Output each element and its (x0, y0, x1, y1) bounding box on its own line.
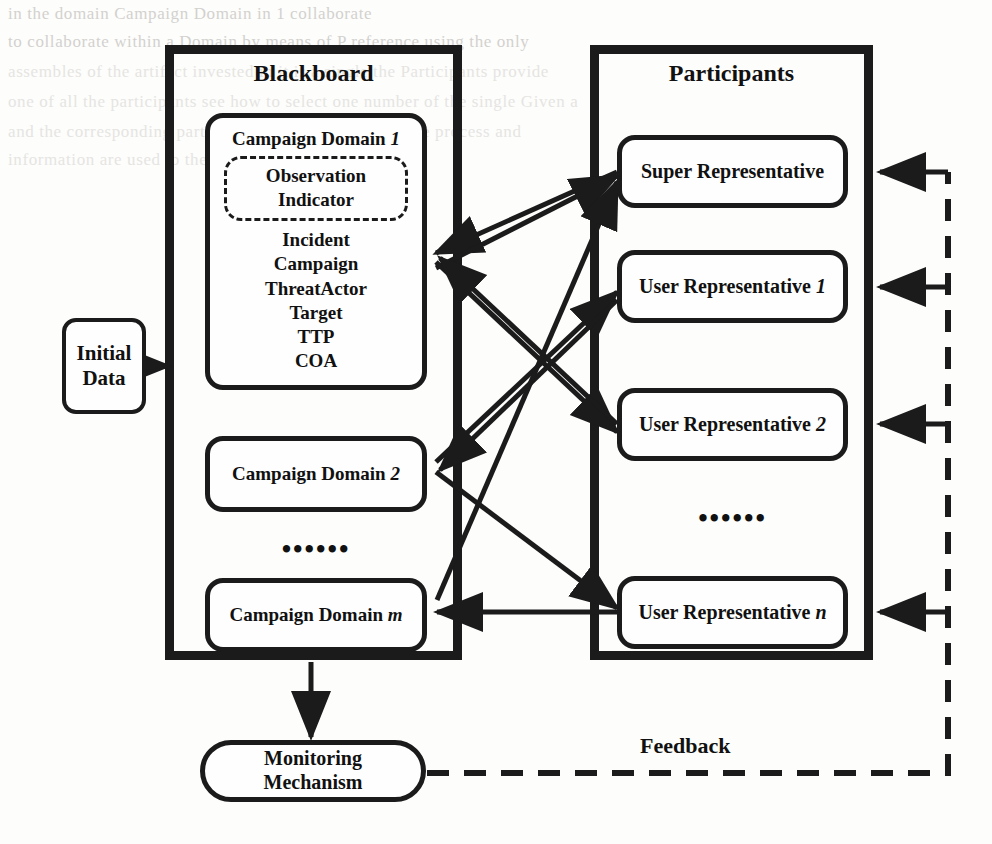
feedback-label: Feedback (640, 733, 730, 759)
campaign-domain-m-label: Campaign Domain m (229, 604, 402, 626)
user-representative-1-label-index: 1 (816, 275, 826, 297)
user-representative-2-label: User Representative 2 (639, 413, 826, 437)
user-representative-n-label-index: n (815, 601, 826, 623)
participants-ellipsis: •••••• (617, 505, 848, 532)
campaign-domain-1-title-index: 1 (390, 128, 400, 149)
super-representative-label: Super Representative (641, 160, 824, 184)
monitoring-mechanism-node[interactable]: Monitoring Mechanism (200, 740, 426, 802)
entity-coa: COA (210, 349, 422, 373)
campaign-domain-2-label-index: 2 (390, 463, 400, 484)
shared-observation-indicator-box[interactable]: Observation Indicator (224, 156, 408, 221)
entity-campaign: Campaign (210, 252, 422, 276)
blackboard-title: Blackboard (165, 60, 462, 87)
shared-space-line-indicator: Indicator (231, 188, 401, 212)
entity-threatactor: ThreatActor (210, 277, 422, 301)
monitoring-mechanism-line-1: Monitoring (264, 747, 362, 771)
campaign-domain-1-entity-list: Incident Campaign ThreatActor Target TTP… (210, 228, 422, 373)
arrow-domain-2-to-user-rep-1 (436, 292, 617, 462)
user-representative-1-label: User Representative 1 (639, 275, 826, 299)
campaign-domain-m-node[interactable]: Campaign Domain m (205, 578, 427, 652)
arrow-domain-1-to-super-rep (436, 176, 617, 268)
campaign-domain-m-label-index: m (388, 604, 403, 625)
campaign-domain-2-label: Campaign Domain 2 (232, 463, 400, 485)
initial-data-line-1: Initial (77, 341, 132, 366)
user-representative-2-label-index: 2 (816, 413, 826, 435)
entity-incident: Incident (210, 228, 422, 252)
participants-title: Participants (590, 60, 873, 87)
user-representative-2-label-prefix: User Representative (639, 413, 816, 435)
campaign-domain-m-label-prefix: Campaign Domain (229, 604, 387, 625)
entity-target: Target (210, 301, 422, 325)
user-representative-1-label-prefix: User Representative (639, 275, 816, 297)
campaign-domain-1-node[interactable]: Campaign Domain 1 Observation Indicator … (205, 113, 427, 390)
user-representative-1-node[interactable]: User Representative 1 (617, 250, 848, 323)
diagram-canvas: in the domain Campaign Domain in 1 colla… (0, 0, 992, 844)
campaign-domain-1-title: Campaign Domain 1 (210, 128, 422, 150)
campaign-domain-2-label-prefix: Campaign Domain (232, 463, 390, 484)
arrow-user-rep-2-to-domain-1 (440, 258, 617, 424)
user-representative-2-node[interactable]: User Representative 2 (617, 388, 848, 461)
super-representative-label-prefix: Super Representative (641, 160, 824, 182)
campaign-domain-1-title-prefix: Campaign Domain (232, 128, 390, 149)
arrow-domain-1-to-user-rep-2 (436, 262, 617, 432)
user-representative-n-node[interactable]: User Representative n (617, 576, 848, 649)
shared-space-line-observation: Observation (231, 164, 401, 188)
super-representative-node[interactable]: Super Representative (617, 135, 848, 208)
monitoring-mechanism-line-2: Mechanism (264, 771, 363, 795)
entity-ttp: TTP (210, 325, 422, 349)
user-representative-n-label: User Representative n (638, 601, 826, 625)
initial-data-line-2: Data (82, 366, 125, 391)
campaign-domain-2-node[interactable]: Campaign Domain 2 (205, 436, 427, 512)
user-representative-n-label-prefix: User Representative (638, 601, 815, 623)
initial-data-node[interactable]: Initial Data (62, 318, 146, 414)
blackboard-ellipsis: •••••• (205, 536, 427, 563)
